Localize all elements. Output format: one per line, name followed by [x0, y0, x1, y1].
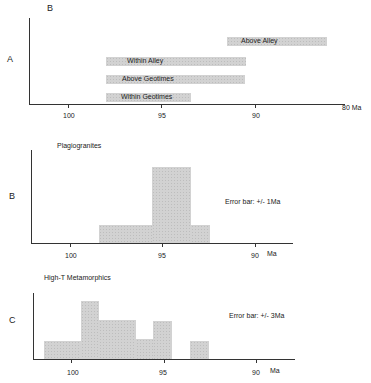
- bar-label-within-alley: Within Alley: [127, 57, 163, 64]
- bar-label-above-geotimes: Above Geotimes: [122, 75, 174, 82]
- panel-c-y-axis: [33, 293, 34, 360]
- panel-c-title: High-T Metamorphics: [44, 274, 111, 281]
- histogram-bar: [44, 341, 81, 359]
- tick-100: [68, 105, 69, 108]
- panel-a-x-axis: [29, 104, 345, 105]
- panel-c-side-label: C: [9, 315, 16, 325]
- panel-a-header: B: [47, 3, 53, 13]
- histogram-bar: [81, 301, 99, 359]
- axis-unit-label: Ma: [270, 367, 280, 374]
- bar-label-within-geotimes: Within Geotimes: [121, 93, 172, 100]
- tick-90: [255, 244, 256, 247]
- tick-label-100: 100: [63, 112, 75, 119]
- tick-label-90: 90: [252, 112, 260, 119]
- histogram-bar: [190, 341, 209, 359]
- tick-95: [162, 244, 163, 247]
- tick-label-95: 95: [158, 252, 166, 259]
- tick-100: [70, 244, 71, 247]
- tick-95: [164, 360, 165, 363]
- axis-unit-label: Ma: [267, 250, 277, 257]
- histogram-bar: [191, 225, 210, 243]
- panel-b-y-axis: [31, 150, 32, 244]
- tick-label-100: 100: [67, 369, 79, 376]
- bar-label-above-alley: Above Alley: [241, 37, 278, 44]
- panel-b-title: Plagiogranites: [57, 142, 101, 149]
- tick-90: [256, 360, 257, 363]
- tick-100: [71, 360, 72, 363]
- histogram-bar: [153, 321, 172, 359]
- panel-a-y-axis: [29, 18, 30, 105]
- panel-c-annotation: Error bar: +/- 3Ma: [229, 312, 284, 319]
- tick-label-100: 100: [65, 252, 77, 259]
- histogram-bar: [99, 225, 152, 243]
- axis-end-label: 80 Ma: [342, 104, 361, 111]
- tick-label-90: 90: [252, 369, 260, 376]
- histogram-bar: [136, 339, 153, 359]
- tick-label-95: 95: [158, 112, 166, 119]
- tick-95: [161, 105, 162, 108]
- tick-label-95: 95: [159, 369, 167, 376]
- histogram-bar: [152, 167, 191, 243]
- panel-b-side-label: B: [9, 191, 15, 201]
- tick-90: [255, 105, 256, 108]
- panel-a-side-label: A: [7, 54, 13, 64]
- tick-label-90: 90: [251, 252, 259, 259]
- histogram-bar: [99, 320, 136, 359]
- panel-b-annotation: Error bar: +/- 1Ma: [225, 198, 280, 205]
